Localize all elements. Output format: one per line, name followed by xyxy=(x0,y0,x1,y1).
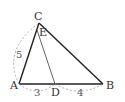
side-bc xyxy=(39,23,103,84)
measure-db: 4 xyxy=(77,87,83,98)
measure-ac: 5 xyxy=(16,49,22,60)
label-b: B xyxy=(106,79,114,92)
triangle-diagram: C A B D E 5 3 4 xyxy=(0,0,125,102)
label-a: A xyxy=(9,79,19,92)
label-e: E xyxy=(39,26,47,39)
label-c: C xyxy=(34,10,42,23)
measure-ad: 3 xyxy=(34,87,40,98)
label-d: D xyxy=(51,86,60,99)
